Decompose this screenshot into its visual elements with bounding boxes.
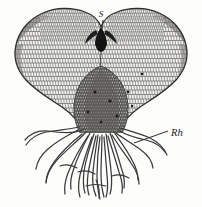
prothallus-illustration: Rh S: [0, 0, 202, 207]
label-rhizoid: Rh: [170, 127, 183, 138]
label-apical-notch: S: [99, 9, 104, 19]
prothallus-figure: Rh S: [0, 0, 202, 207]
